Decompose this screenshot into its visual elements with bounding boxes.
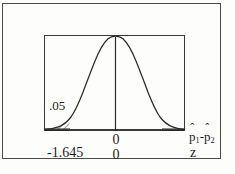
p2-hat-symbol: ̂p xyxy=(204,130,211,145)
p1-hat-symbol: ̂p xyxy=(189,130,196,145)
critical-value-label: -1.645 xyxy=(47,146,83,160)
subscript-2: 2 xyxy=(211,136,215,145)
normal-curve-path xyxy=(45,36,184,129)
phat-difference-axis-name: ̂p1-̂p2 xyxy=(189,130,215,145)
normal-distribution-figure: .05 0 0 -1.645 ̂p1-̂p2 z xyxy=(0,0,235,174)
phat-axis-zero-label: 0 xyxy=(95,132,137,147)
hat-accent-1: ̂ xyxy=(189,123,196,135)
z-axis-zero-label: 0 xyxy=(95,147,137,162)
z-axis-name: z xyxy=(189,145,215,161)
rejection-region-shading xyxy=(46,119,70,130)
center-axis-value-labels: 0 0 xyxy=(95,132,137,162)
axis-name-labels: ̂p1-̂p2 z xyxy=(189,130,215,161)
distribution-curve-graphic xyxy=(44,35,185,131)
alpha-level-label: .05 xyxy=(49,99,65,112)
subscript-1: 1 xyxy=(196,136,200,145)
hat-accent-2: ̂ xyxy=(204,123,211,135)
